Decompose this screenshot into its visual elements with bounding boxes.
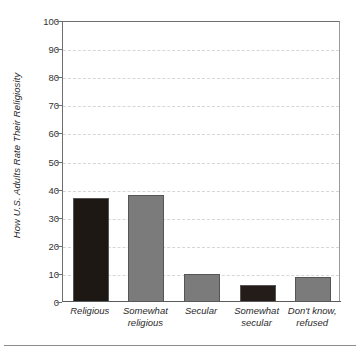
y-axis-tick-mark: [56, 21, 62, 22]
y-axis-tick-label: 0: [30, 297, 59, 308]
x-axis-tick-label: Religious: [62, 305, 118, 317]
x-axis-tick-label-line: refused: [284, 317, 340, 329]
x-axis-tick-label-line: Somewhat: [229, 305, 285, 317]
x-axis-tick-label-line: secular: [229, 317, 285, 329]
y-axis-tick-label: 20: [30, 240, 59, 251]
y-axis-tick-label: 100: [30, 16, 59, 27]
y-axis-tick-label: 30: [30, 212, 59, 223]
y-axis-tick-mark: [56, 105, 62, 106]
bar: [184, 274, 220, 302]
bar: [73, 198, 109, 302]
x-axis-tick-label: Somewhatreligious: [118, 305, 174, 328]
x-axis-tick-label-line: Secular: [173, 305, 229, 317]
y-axis-tick-mark: [56, 302, 62, 303]
x-axis-tick-label-line: religious: [118, 317, 174, 329]
x-axis-tick-label-line: Don't know,: [284, 305, 340, 317]
bar: [240, 285, 276, 302]
y-axis-tick-label: 40: [30, 184, 59, 195]
x-axis-tick-labels: ReligiousSomewhatreligiousSecularSomewha…: [62, 305, 341, 339]
x-axis-tick-label: Don't know,refused: [284, 305, 340, 328]
y-axis-tick-label: 80: [30, 72, 59, 83]
x-axis-tick-label-line: Religious: [62, 305, 118, 317]
y-axis-tick-mark: [56, 218, 62, 219]
x-axis-tick-label-line: Somewhat: [118, 305, 174, 317]
y-axis-tick-label: 10: [30, 268, 59, 279]
y-axis-tick-mark: [56, 162, 62, 163]
bottom-divider-rule: [4, 345, 356, 346]
x-axis-tick-label: Secular: [173, 305, 229, 317]
y-axis-tick-label: 70: [30, 100, 59, 111]
plot-area: [62, 21, 340, 302]
x-axis-line: [62, 301, 341, 302]
y-axis-tick-labels: 0102030405060708090100: [30, 14, 59, 302]
y-axis-tick-mark: [56, 274, 62, 275]
y-axis-title-label: How U.S. Adults Rate Their Religiosity: [12, 72, 23, 238]
religiosity-bar-chart-figure: How U.S. Adults Rate Their Religiosity 0…: [0, 0, 360, 356]
y-axis-tick-mark: [56, 246, 62, 247]
y-axis-tick-label: 50: [30, 156, 59, 167]
y-axis-tick-label: 90: [30, 44, 59, 55]
bar: [128, 195, 164, 302]
y-axis-title: How U.S. Adults Rate Their Religiosity: [0, 0, 34, 310]
y-axis-tick-label: 60: [30, 128, 59, 139]
bar-series: [63, 22, 339, 302]
y-axis-tick-mark: [56, 77, 62, 78]
y-axis-tick-mark: [56, 49, 62, 50]
x-axis-tick-label: Somewhatsecular: [229, 305, 285, 328]
y-axis-tick-mark: [56, 133, 62, 134]
bar: [295, 277, 331, 302]
y-axis-tick-mark: [56, 190, 62, 191]
